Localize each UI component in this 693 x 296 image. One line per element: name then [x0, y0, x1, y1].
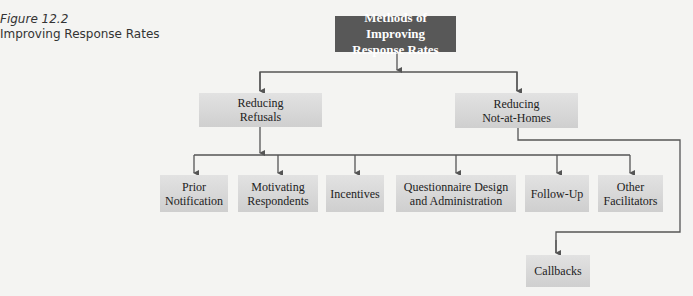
node-label-line1: Callbacks	[534, 264, 581, 278]
node-label-line1: Incentives	[330, 187, 379, 201]
node-label-line1: Questionnaire Design	[404, 180, 508, 194]
node-incentives: Incentives	[326, 175, 384, 212]
node-follow-up: Follow-Up	[525, 175, 589, 212]
node-label-line1: Prior	[182, 180, 206, 194]
branch-label-line2: Refusals	[240, 110, 281, 124]
node-label-line1: Other	[617, 180, 644, 194]
branch-reducing-not-at-homes: Reducing Not-at-Homes	[455, 93, 578, 128]
node-label-line2: and Administration	[410, 194, 502, 208]
branch-label-line1: Reducing	[494, 97, 540, 111]
node-label-line2: Respondents	[247, 194, 308, 208]
root-label-line1: Methods of Improving	[335, 10, 456, 42]
node-other-facilitators: Other Facilitators	[598, 175, 663, 212]
node-questionnaire-design: Questionnaire Design and Administration	[396, 175, 516, 212]
branch-label-line2: Not-at-Homes	[482, 111, 551, 125]
node-label-line1: Follow-Up	[531, 187, 584, 201]
branch-reducing-refusals: Reducing Refusals	[199, 93, 322, 127]
root-node: Methods of Improving Response Rates	[335, 16, 456, 52]
branch-label-line1: Reducing	[238, 96, 284, 110]
node-callbacks: Callbacks	[526, 255, 590, 287]
root-label-line2: Response Rates	[352, 42, 438, 58]
node-label-line2: Notification	[165, 194, 223, 208]
node-motivating-respondents: Motivating Respondents	[238, 175, 318, 212]
node-label-line1: Motivating	[251, 180, 304, 194]
node-prior-notification: Prior Notification	[160, 175, 228, 212]
node-label-line2: Facilitators	[604, 194, 658, 208]
